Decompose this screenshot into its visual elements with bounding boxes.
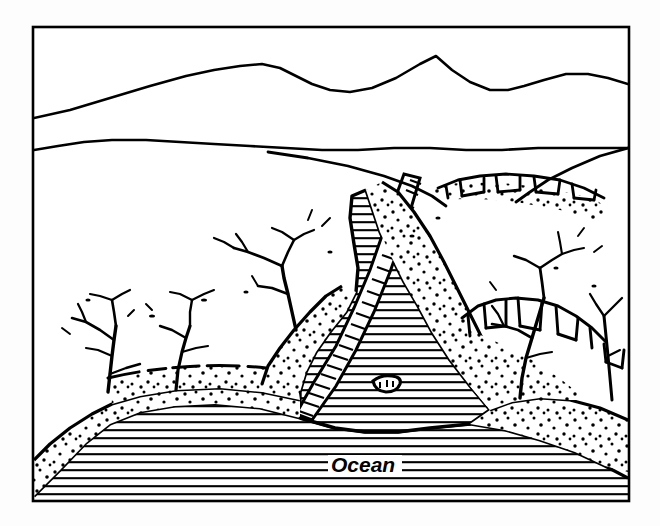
ocean-label: Ocean	[331, 453, 395, 476]
block-diagram-figure: Ocean	[0, 0, 660, 526]
figure-page: Ocean	[0, 0, 660, 526]
ocean-label-group: Ocean	[328, 453, 402, 477]
sand-bar-island	[373, 376, 400, 392]
diagram-body: Ocean	[34, 28, 628, 500]
